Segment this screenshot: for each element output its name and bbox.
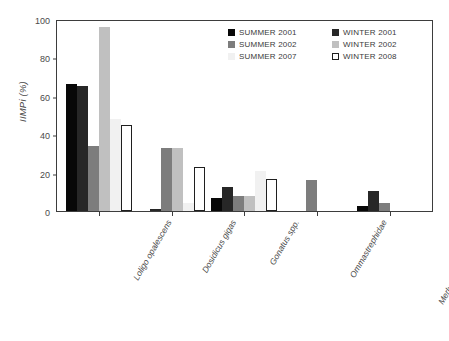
legend-label: WINTER 2001 [343, 28, 397, 37]
legend-item[interactable]: SUMMER 2001 [228, 28, 318, 37]
legend-item[interactable]: WINTER 2002 [332, 40, 418, 49]
bar[interactable] [110, 119, 121, 211]
bar[interactable] [150, 209, 161, 211]
bar-group [139, 21, 205, 211]
bar[interactable] [255, 171, 266, 211]
bar[interactable] [77, 86, 88, 211]
bar-group [66, 21, 132, 211]
bar[interactable] [66, 84, 77, 211]
bar[interactable] [266, 179, 277, 211]
x-tick-mark [390, 212, 391, 216]
legend-item[interactable]: SUMMER 2002 [228, 40, 318, 49]
bar[interactable] [357, 206, 368, 211]
bar[interactable] [183, 203, 194, 211]
legend-swatch-icon [332, 41, 339, 48]
bar[interactable] [211, 198, 222, 211]
x-tick-mark [317, 212, 318, 216]
legend-swatch-icon [332, 53, 339, 60]
y-tick-label: 100 [35, 16, 57, 26]
x-tick-label: Ommastrephidae [348, 218, 389, 279]
bar[interactable] [222, 187, 233, 211]
legend-item[interactable]: SUMMER 2007 [228, 52, 318, 61]
bar-chart-figure: IIMPi (%) 020406080100 Loligo opalescens… [0, 0, 449, 341]
x-tick-label: Merluccius angustimanus [436, 218, 449, 306]
legend-swatch-icon [228, 41, 235, 48]
x-tick-mark [99, 212, 100, 216]
legend-label: WINTER 2008 [343, 52, 397, 61]
y-axis-label: IIMPi (%) [17, 62, 28, 142]
x-tick-mark [244, 212, 245, 216]
legend-label: SUMMER 2007 [239, 52, 297, 61]
x-tick-mark [172, 212, 173, 216]
bar[interactable] [379, 203, 390, 211]
bar[interactable] [121, 125, 132, 211]
bar[interactable] [368, 191, 379, 211]
bar[interactable] [99, 27, 110, 211]
legend-item[interactable]: WINTER 2008 [332, 52, 418, 61]
x-tick-label: Gonatus spp. [268, 218, 302, 267]
legend-swatch-icon [228, 53, 235, 60]
bar[interactable] [161, 148, 172, 211]
x-tick-label: Dosidicus gigas [200, 218, 238, 275]
legend-swatch-icon [332, 29, 339, 36]
y-tick-label: 0 [45, 208, 57, 218]
x-tick-label: Loligo opalescens [131, 218, 174, 282]
legend-item[interactable]: WINTER 2001 [332, 28, 418, 37]
chart-legend: SUMMER 2001WINTER 2001SUMMER 2002WINTER … [228, 28, 418, 61]
bar[interactable] [88, 146, 99, 211]
bar[interactable] [172, 148, 183, 211]
legend-label: SUMMER 2001 [239, 28, 297, 37]
legend-label: SUMMER 2002 [239, 40, 297, 49]
legend-label: WINTER 2002 [343, 40, 397, 49]
bar[interactable] [233, 196, 244, 211]
bar[interactable] [244, 196, 255, 211]
legend-swatch-icon [228, 29, 235, 36]
bar[interactable] [306, 180, 317, 211]
bar[interactable] [194, 167, 205, 211]
